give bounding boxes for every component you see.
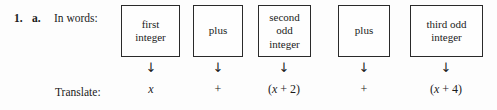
arrow-down-icon: ↓ <box>274 58 294 78</box>
arrow-row: ↓↓↓↓↓ <box>0 58 497 80</box>
math-symbol: + <box>361 82 368 96</box>
translation-expression: (x + 4) <box>406 80 486 98</box>
phrase-box: plus <box>338 5 390 57</box>
arrow-down-icon: ↓ <box>208 58 228 78</box>
math-symbol: + <box>215 82 222 96</box>
arrow-down-icon: ↓ <box>354 58 374 78</box>
phrase-box-text: plus <box>355 24 373 37</box>
phrase-box: first integer <box>121 5 180 57</box>
phrase-box-row: first integerplussecond odd integerplust… <box>0 0 497 58</box>
translation-expression: (x + 2) <box>244 80 324 98</box>
math-symbol: + 4) <box>439 82 462 96</box>
translation-row: x+(x + 2)+(x + 4) <box>0 80 497 110</box>
phrase-box: second odd integer <box>258 5 311 57</box>
exercise-diagram: 1. a. In words: Translate: first integer… <box>0 0 497 110</box>
arrow-down-icon: ↓ <box>141 58 161 78</box>
phrase-box-text: first integer <box>135 18 166 45</box>
math-variable: x <box>148 82 153 96</box>
phrase-box-text: third odd integer <box>426 18 466 45</box>
arrow-down-icon: ↓ <box>436 58 456 78</box>
math-symbol: + 2) <box>277 82 300 96</box>
phrase-box-text: plus <box>209 24 227 37</box>
translation-expression: + <box>324 80 404 98</box>
phrase-box: plus <box>193 5 243 57</box>
phrase-box: third odd integer <box>410 5 483 57</box>
phrase-box-text: second odd integer <box>269 11 300 51</box>
